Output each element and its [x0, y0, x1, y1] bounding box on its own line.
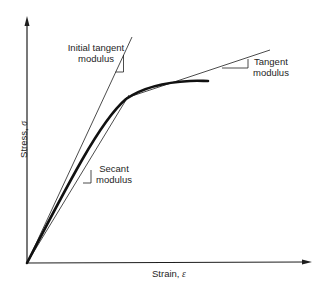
tangent-label: Tangent modulus	[253, 56, 289, 78]
x-axis-label-text: Strain,	[152, 268, 182, 279]
secant-label: Secant modulus	[93, 163, 135, 185]
diagram-canvas	[0, 0, 324, 287]
stress-symbol: σ	[19, 121, 29, 126]
initial-tangent-label: Initial tangent modulus	[60, 42, 132, 64]
secant-label-line2: modulus	[93, 174, 135, 185]
tangent-label-line1: Tangent	[253, 56, 289, 67]
initial-tangent-label-line1: Initial tangent	[60, 42, 132, 53]
y-axis-label: Stress, σ	[18, 115, 29, 165]
x-axis-label: Strain, ε	[152, 268, 186, 280]
x-axis-arrow-icon	[302, 260, 312, 265]
initial-tangent-line	[27, 37, 132, 263]
stress-strain-diagram: Initial tangent modulus Tangent modulus …	[0, 0, 324, 287]
tangent-line	[126, 50, 270, 98]
secant-slope-triangle	[83, 170, 91, 183]
tangent-label-line2: modulus	[253, 67, 289, 78]
strain-symbol: ε	[182, 269, 186, 279]
y-axis-arrow-icon	[25, 16, 30, 26]
secant-label-line1: Secant	[93, 163, 135, 174]
tangent-slope-triangle	[222, 59, 248, 68]
y-axis-label-text: Stress,	[18, 126, 29, 158]
initial-tangent-label-line2: modulus	[60, 53, 132, 64]
x-axis	[27, 260, 312, 265]
